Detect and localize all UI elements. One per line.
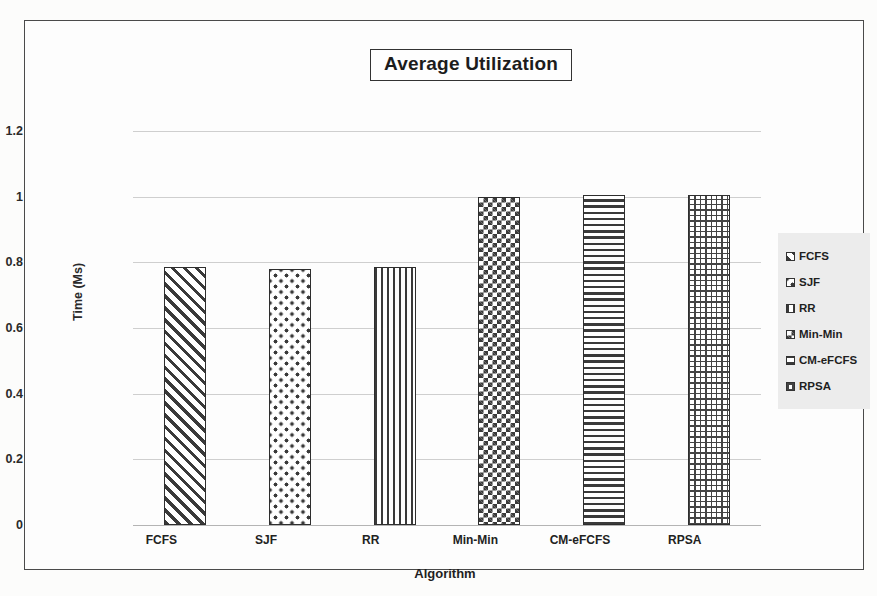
legend-label: CM-eFCFS	[799, 354, 857, 366]
gridline	[133, 328, 761, 329]
bar-rpsa	[688, 195, 730, 525]
y-axis-tick-label: 0.6	[0, 321, 23, 335]
y-axis-tick-label: 1	[0, 190, 23, 204]
chart-title: Average Utilization	[384, 53, 558, 75]
x-axis-title: Algorithm	[25, 566, 865, 581]
y-axis-tick-label: 0.4	[0, 387, 23, 401]
x-axis-tick-label: Min-Min	[453, 533, 498, 547]
legend-item: RR	[786, 295, 866, 321]
legend-label: Min-Min	[799, 328, 842, 340]
bar-fcfs	[164, 267, 206, 525]
gridline	[133, 262, 761, 263]
legend-label: SJF	[799, 276, 820, 288]
legend-swatch-icon	[786, 304, 795, 313]
chart-legend: FCFSSJFRRMin-MinCM-eFCFSRPSA	[778, 233, 870, 409]
gridline	[133, 459, 761, 460]
y-axis-tick-label: 1.2	[0, 124, 23, 138]
x-axis-tick-label: FCFS	[146, 533, 177, 547]
legend-item: SJF	[786, 269, 866, 295]
x-axis-tick-label: RR	[362, 533, 379, 547]
y-axis-title: Time (Ms)	[71, 263, 85, 321]
legend-label: RR	[799, 302, 816, 314]
gridline	[133, 197, 761, 198]
chart-frame: Average Utilization Time (Ms) 00.20.40.6…	[24, 20, 864, 570]
x-axis-tick-label: SJF	[255, 533, 277, 547]
y-axis-tick-label: 0.8	[0, 255, 23, 269]
plot-area: 00.20.40.60.811.2	[133, 131, 761, 525]
legend-swatch-icon	[786, 382, 795, 391]
legend-item: CM-eFCFS	[786, 347, 866, 373]
bar-rr	[374, 267, 416, 525]
y-axis-tick-label: 0.2	[0, 452, 23, 466]
legend-swatch-icon	[786, 330, 795, 339]
gridline	[133, 131, 761, 132]
legend-label: FCFS	[799, 250, 829, 262]
y-axis-tick-label: 0	[0, 518, 23, 532]
x-axis-tick-label: RPSA	[668, 533, 701, 547]
bar-sjf	[269, 269, 311, 525]
legend-item: Min-Min	[786, 321, 866, 347]
legend-swatch-icon	[786, 278, 795, 287]
bar-min-min	[478, 197, 520, 525]
gridline	[133, 525, 761, 526]
legend-swatch-icon	[786, 252, 795, 261]
x-axis-tick-label: CM-eFCFS	[550, 533, 611, 547]
gridline	[133, 394, 761, 395]
legend-item: RPSA	[786, 373, 866, 399]
legend-label: RPSA	[799, 380, 831, 392]
bar-cm-efcfs	[583, 195, 625, 525]
legend-swatch-icon	[786, 356, 795, 365]
legend-item: FCFS	[786, 243, 866, 269]
chart-title-box: Average Utilization	[370, 49, 572, 81]
